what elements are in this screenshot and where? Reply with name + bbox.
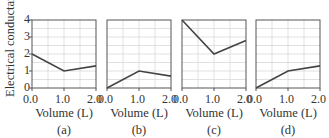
panel-label-c: (c) [199, 123, 229, 138]
x-tick-a-0: 0.0 [23, 92, 38, 107]
y-tick-3: 3 [20, 29, 30, 44]
panel-label-a: (a) [49, 123, 79, 138]
y-axis-label: Electrical conductance [3, 1, 17, 97]
x-tick-c-1: 1.0 [205, 92, 220, 107]
x-tick-b-0: 0.0 [98, 92, 113, 107]
panel-d [256, 20, 320, 88]
x-axis-label-b: Volume (L) [99, 106, 179, 121]
x-tick-d-2: 2.0 [311, 92, 326, 107]
plot-c [182, 20, 246, 88]
x-tick-d-0: 0.0 [247, 92, 262, 107]
plot-d [256, 20, 320, 88]
x-tick-c-0: 0.0 [173, 92, 188, 107]
panel-label-d: (d) [273, 123, 303, 138]
x-axis-label-c: Volume (L) [174, 106, 254, 121]
x-tick-a-1: 1.0 [55, 92, 70, 107]
x-axis-label-d: Volume (L) [248, 106, 328, 121]
panel-c [182, 20, 246, 88]
x-axis-label-a: Volume (L) [24, 106, 104, 121]
panel-b [107, 20, 171, 88]
panel-label-b: (b) [124, 123, 154, 138]
x-tick-d-1: 1.0 [279, 92, 294, 107]
y-tick-4: 4 [20, 12, 30, 27]
plot-b [107, 20, 171, 88]
y-tick-2: 2 [20, 46, 30, 61]
x-tick-b-1: 1.0 [130, 92, 145, 107]
y-tick-1: 1 [20, 63, 30, 78]
panel-a [32, 20, 96, 88]
plot-a [32, 20, 96, 88]
